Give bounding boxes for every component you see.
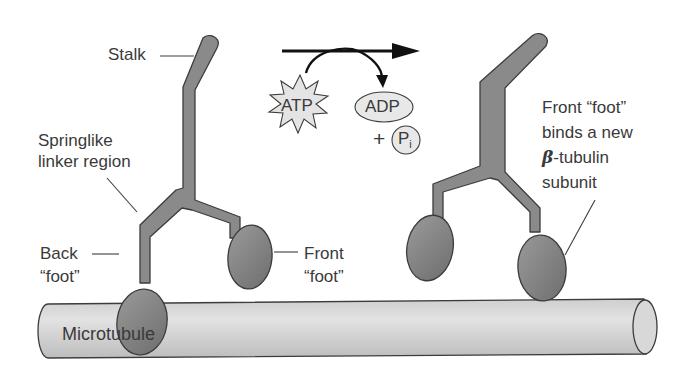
- phosphate-p: P: [398, 129, 409, 148]
- microtubule-label: Microtubule: [62, 324, 155, 345]
- linker-label-line1: Springlike: [38, 130, 113, 151]
- right-front-foot: [515, 233, 569, 303]
- new-front-foot-leader: [565, 200, 595, 255]
- left-dynein-body: [140, 36, 240, 283]
- back-foot-label-line1: Back: [40, 243, 78, 264]
- leader-lines: [92, 56, 595, 255]
- new-front-foot-label-line4: subunit: [542, 172, 597, 193]
- phosphate-subscript: i: [409, 138, 411, 150]
- tubulin-text: -tubulin: [553, 148, 609, 167]
- beta-symbol: β: [542, 147, 553, 167]
- dynein-after-step: [402, 34, 569, 303]
- new-front-foot-label-line1: Front “foot”: [542, 97, 626, 118]
- atp-label: ATP: [281, 95, 313, 116]
- phosphate-label: Pi: [398, 128, 412, 155]
- right-dynein-body: [433, 34, 547, 232]
- right-back-foot: [402, 212, 459, 285]
- linker-leader: [107, 178, 137, 212]
- stalk-label: Stalk: [108, 44, 146, 65]
- front-foot-label-line1: Front: [304, 243, 344, 264]
- new-front-foot-label-line2: binds a new: [542, 122, 633, 143]
- front-foot-label-line2: “foot”: [304, 266, 344, 287]
- plus-sign: +: [373, 128, 385, 149]
- adp-label: ADP: [365, 96, 400, 117]
- back-foot-label-line2: “foot”: [40, 266, 80, 287]
- new-front-foot-label-line3: β-tubulin: [542, 147, 609, 168]
- linker-label-line2: linker region: [38, 151, 131, 172]
